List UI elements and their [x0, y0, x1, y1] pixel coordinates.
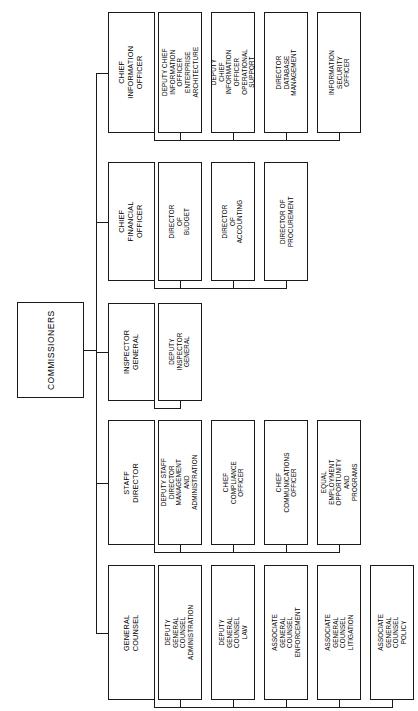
node-label: DEPUTY GENERAL COUNSEL LAW	[218, 612, 249, 654]
node-level2-4-2[interactable]: ASSOCIATE GENERAL COUNSEL ENFORCEMENT	[264, 565, 308, 700]
node-level1-0[interactable]: CHIEF INFORMATION OFFICER	[108, 12, 155, 133]
branch-0-child-3-stub	[339, 133, 340, 141]
branch-2-child-0-stub	[180, 401, 181, 409]
branch-0-child-1-stub	[233, 133, 234, 141]
node-level2-3-2[interactable]: CHIEF COMMUNICATIONS OFFICER	[264, 420, 308, 545]
node-level2-4-0[interactable]: DEPUTY GENERAL COUNSEL ADMINISTRATION	[158, 565, 202, 700]
node-level2-0-3[interactable]: INFORMATION SECURITY OFFICER	[317, 12, 361, 133]
node-level2-0-0[interactable]: DEPUTY CHIEF INFORMATION OFFICER ENTERPR…	[158, 12, 202, 133]
node-label: CHIEF COMPLIANCE OFFICER	[221, 461, 244, 504]
branch-3-child-0-stub	[180, 545, 181, 553]
node-level2-3-3[interactable]: EQUAL EMPLOYMENT OPPORTUNITY AND PROGRAM…	[317, 420, 361, 545]
node-label: DIRECTOR OF PROCUREMENT	[278, 196, 293, 247]
branch-4-child-3-stub	[339, 700, 340, 708]
branch-3-child-3-stub	[339, 545, 340, 553]
node-label: ASSOCIATE GENERAL COUNSEL POLICY	[377, 612, 408, 654]
node-level2-4-1[interactable]: DEPUTY GENERAL COUNSEL LAW	[211, 565, 255, 700]
node-label: DEPUTY STAFF DIRECTOR MANAGEMENT AND ADM…	[161, 455, 199, 510]
node-label: CHIEF COMMUNICATIONS OFFICER	[275, 452, 298, 512]
node-label: EQUAL EMPLOYMENT OPPORTUNITY AND PROGRAM…	[320, 459, 358, 506]
node-level2-1-0[interactable]: DIRECTOR OF BUDGET	[158, 162, 202, 281]
node-label: CHIEF INFORMATION OFFICER	[118, 46, 145, 99]
node-level1-1[interactable]: CHIEF FINANCIAL OFFICER	[108, 162, 155, 281]
branch-3-bus	[154, 552, 340, 553]
node-label: CHIEF FINANCIAL OFFICER	[118, 199, 145, 244]
node-label: COMMISSIONERS	[45, 310, 55, 390]
node-label: INFORMATION SECURITY OFFICER	[327, 50, 350, 95]
branch-3-child-2-stub	[286, 545, 287, 553]
node-label: ASSOCIATE GENERAL COUNSEL LITIGATION	[324, 612, 355, 654]
node-level2-4-4[interactable]: ASSOCIATE GENERAL COUNSEL POLICY	[370, 565, 414, 700]
node-label: DEPUTY CHIEF INFORMATION OFFICER OPERATI…	[211, 50, 255, 95]
branch-0-child-0-stub	[180, 133, 181, 141]
node-label: ASSOCIATE GENERAL COUNSEL ENFORCEMENT	[271, 607, 302, 657]
node-level2-0-2[interactable]: DIRECTOR DATABASE MANAGEMENT	[264, 12, 308, 133]
branch-1-child-2-stub	[286, 281, 287, 289]
node-level1-4[interactable]: GENERAL COUNSEL	[108, 565, 155, 700]
branch-4-bus	[154, 707, 393, 708]
node-level1-3[interactable]: STAFF DIRECTOR	[108, 420, 155, 545]
branch-4-child-1-stub	[233, 700, 234, 708]
node-commissioners[interactable]: COMMISSIONERS	[17, 302, 84, 398]
branch-0-bus	[154, 140, 340, 141]
branch-1-bus	[154, 288, 287, 289]
node-label: DEPUTY GENERAL COUNSEL ADMINISTRATION	[165, 605, 196, 660]
node-level2-4-3[interactable]: ASSOCIATE GENERAL COUNSEL LITIGATION	[317, 565, 361, 700]
node-label: DEPUTY INSPECTOR GENERAL	[168, 331, 191, 373]
node-level2-0-1[interactable]: DEPUTY CHIEF INFORMATION OFFICER OPERATI…	[211, 12, 255, 133]
node-level1-2[interactable]: INSPECTOR GENERAL	[108, 303, 155, 401]
node-level2-2-0[interactable]: DEPUTY INSPECTOR GENERAL	[158, 303, 202, 401]
branch-1-child-1-stub	[233, 281, 234, 289]
node-label: STAFF DIRECTOR	[123, 460, 141, 505]
branch-2-bus	[154, 408, 181, 409]
branch-4-child-2-stub	[286, 700, 287, 708]
branch-4-child-0-stub	[180, 700, 181, 708]
org-chart: COMMISSIONERSCHIEF INFORMATION OFFICERDE…	[0, 0, 418, 711]
node-level2-3-1[interactable]: CHIEF COMPLIANCE OFFICER	[211, 420, 255, 545]
node-level2-3-0[interactable]: DEPUTY STAFF DIRECTOR MANAGEMENT AND ADM…	[158, 420, 202, 545]
branch-1-child-0-stub	[180, 281, 181, 289]
branch-4-child-4-stub	[392, 700, 393, 708]
node-label: INSPECTOR GENERAL	[123, 330, 141, 375]
node-label: GENERAL COUNSEL	[123, 610, 141, 655]
node-level2-1-1[interactable]: DIRECTOR OF ACCOUNTING	[211, 162, 255, 281]
node-label: DIRECTOR OF BUDGET	[168, 200, 191, 242]
node-label: DEPUTY CHIEF INFORMATION OFFICER ENTERPR…	[161, 47, 199, 98]
node-label: DIRECTOR OF ACCOUNTING	[221, 200, 244, 244]
branch-0-child-2-stub	[286, 133, 287, 141]
node-label: DIRECTOR DATABASE MANAGEMENT	[275, 49, 298, 95]
node-level2-1-2[interactable]: DIRECTOR OF PROCUREMENT	[264, 162, 308, 281]
branch-3-child-1-stub	[233, 545, 234, 553]
